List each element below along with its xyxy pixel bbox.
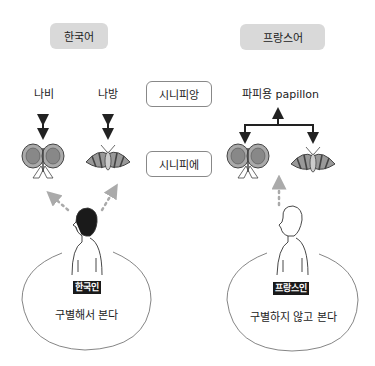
moth-icon — [291, 147, 335, 172]
dotted-gaze-arrow — [52, 190, 114, 210]
french-caption: 구별하지 않고 본다 — [250, 308, 337, 324]
korean-person-icon — [72, 208, 102, 275]
french-person-label: 프랑스인 — [273, 282, 309, 295]
branch-arrow-icon — [245, 113, 313, 138]
butterfly-icon — [22, 144, 64, 178]
butterfly-icon — [227, 144, 269, 178]
moth-icon — [86, 145, 130, 170]
korean-caption: 구별해서 본다 — [55, 306, 119, 322]
korean-ellipse — [22, 252, 151, 350]
french-person-icon — [277, 206, 308, 275]
korean-person-label: 한국인 — [73, 281, 101, 294]
french-ellipse — [227, 253, 358, 351]
